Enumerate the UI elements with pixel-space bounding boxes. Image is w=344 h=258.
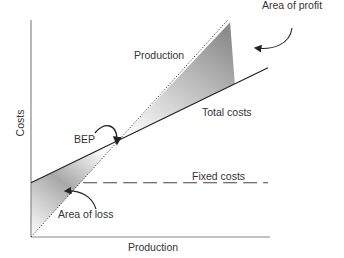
profit-arrow-icon bbox=[256, 28, 292, 48]
fixed-costs-label: Fixed costs bbox=[192, 170, 245, 182]
bep-arrow-icon bbox=[95, 126, 117, 143]
x-axis-label: Production bbox=[128, 241, 178, 253]
area-of-profit-region bbox=[119, 22, 235, 140]
production-line bbox=[31, 20, 228, 237]
total-costs-line bbox=[31, 68, 268, 183]
production-line-label: Production bbox=[134, 49, 184, 61]
bep-label: BEP bbox=[74, 133, 95, 145]
break-even-chart: Costs Production Production Area of prof… bbox=[0, 0, 344, 258]
loss-arrow-icon bbox=[66, 191, 96, 209]
y-axis-label: Costs bbox=[14, 110, 26, 137]
total-costs-label: Total costs bbox=[202, 106, 252, 118]
area-of-profit-label: Area of profit bbox=[262, 0, 322, 11]
area-of-loss-label: Area of loss bbox=[58, 208, 113, 220]
